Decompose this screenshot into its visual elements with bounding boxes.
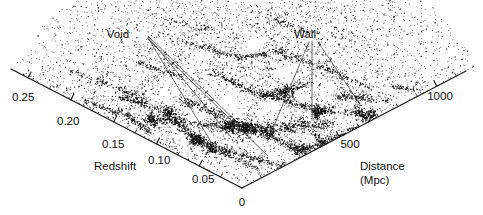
redshift-tick-label-apex: 0 (239, 196, 245, 208)
tick-minor (178, 152, 179, 155)
tick-minor (455, 73, 456, 76)
redshift-tick-label-1: 0.20 (57, 115, 79, 127)
annotation-label-void: Void (107, 28, 129, 40)
distance-tick-label-500: 500 (340, 138, 359, 150)
redshift-tick-label-0: 0.25 (12, 91, 34, 103)
tick-minor (92, 108, 93, 111)
figure-canvas: 0.25 0.20 0.15 0.10 0.05 0 500 1000 Reds… (0, 0, 483, 215)
distance-axis-title-line2: (Mpc) (360, 174, 390, 186)
distance-axis-title-line1: Distance (360, 160, 405, 172)
tick-major (336, 131, 339, 137)
tick-minor (221, 174, 222, 177)
redshift-tick-label-2: 0.15 (102, 138, 124, 150)
redshift-tick-label-4: 0.05 (192, 173, 214, 185)
redshift-tick-label-3: 0.10 (148, 154, 170, 166)
tick-minor (416, 94, 417, 97)
annotation-label-wall: Wall (294, 28, 316, 40)
tick-major (114, 116, 117, 122)
wedge-plot: 0.25 0.20 0.15 0.10 0.05 0 500 1000 Reds… (0, 0, 483, 215)
tick-minor (299, 155, 300, 158)
tick-minor (260, 175, 261, 178)
tick-major (434, 81, 437, 87)
tick-minor (50, 86, 51, 89)
distance-tick-label-1000: 1000 (427, 90, 453, 102)
redshift-axis-title: Redshift (94, 160, 137, 172)
tick-major (199, 160, 202, 166)
tick-minor (135, 130, 136, 133)
galaxy-point-cloud (17, 0, 474, 183)
